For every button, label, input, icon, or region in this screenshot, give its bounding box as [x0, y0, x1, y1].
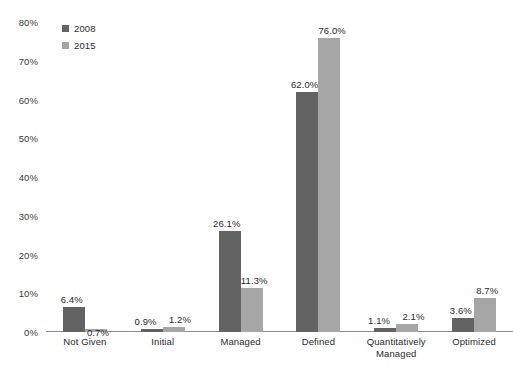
bar-2015[interactable]: 1.2%	[163, 327, 185, 332]
y-axis-tick-label: 40%	[19, 172, 38, 183]
bar-pair: 0.9%1.2%	[124, 22, 202, 332]
legend-label-2015: 2015	[74, 40, 96, 51]
bar-value-label: 8.7%	[476, 285, 498, 296]
bar-group: 0.9%1.2%	[124, 22, 202, 332]
bar-value-label: 11.3%	[241, 275, 268, 286]
x-axis-category-label: Not Given	[46, 336, 124, 348]
bar-value-label: 1.1%	[368, 315, 390, 326]
bar-pair: 1.1%2.1%	[357, 22, 435, 332]
y-axis-tick-label: 60%	[19, 94, 38, 105]
y-axis-tick-label: 80%	[19, 17, 38, 28]
chart-legend: 2008 2015	[62, 20, 96, 54]
bar-pair: 26.1%11.3%	[202, 22, 280, 332]
x-axis-category-label: Optimized	[435, 336, 513, 348]
legend-item-2008: 2008	[62, 20, 96, 37]
bar-group: 3.6%8.7%	[435, 22, 513, 332]
bar-2008[interactable]: 3.6%	[452, 318, 474, 332]
x-axis-category-label: Defined	[280, 336, 358, 348]
bar-group: 6.4%0.7%	[46, 22, 124, 332]
legend-swatch-icon-2015	[62, 42, 69, 49]
bar-pair: 6.4%0.7%	[46, 22, 124, 332]
bar-group: 1.1%2.1%	[357, 22, 435, 332]
bar-2015[interactable]: 8.7%	[474, 298, 496, 332]
bar-value-label: 1.2%	[169, 314, 191, 325]
bar-pair: 3.6%8.7%	[435, 22, 513, 332]
bar-2015[interactable]: 76.0%	[318, 38, 340, 333]
x-axis-category-label: Quantitatively Managed	[357, 336, 435, 360]
bar-2008[interactable]: 6.4%	[63, 307, 85, 332]
bar-value-label: 2.1%	[402, 311, 424, 322]
bar-chart: 80%70%60%50%40%30%20%10%0% 6.4%0.7%0.9%1…	[0, 0, 513, 377]
bar-pair: 62.0%76.0%	[280, 22, 358, 332]
bar-2008[interactable]: 1.1%	[374, 328, 396, 332]
bar-group: 62.0%76.0%	[280, 22, 358, 332]
bar-value-label: 0.9%	[135, 316, 157, 327]
legend-swatch-icon-2008	[62, 25, 69, 32]
bar-2008[interactable]: 26.1%	[219, 231, 241, 332]
y-axis-tick-label: 0%	[24, 327, 38, 338]
legend-item-2015: 2015	[62, 37, 96, 54]
plot-area: 6.4%0.7%0.9%1.2%26.1%11.3%62.0%76.0%1.1%…	[46, 22, 513, 332]
x-axis-category-label: Managed	[202, 336, 280, 348]
bar-2015[interactable]: 0.7%	[85, 329, 107, 332]
bar-2008[interactable]: 0.9%	[141, 329, 163, 332]
y-axis: 80%70%60%50%40%30%20%10%0%	[0, 0, 46, 377]
bar-2015[interactable]: 11.3%	[241, 288, 263, 332]
y-axis-tick-label: 10%	[19, 288, 38, 299]
bar-group: 26.1%11.3%	[202, 22, 280, 332]
x-axis-category-label: Initial	[124, 336, 202, 348]
bar-value-label: 6.4%	[61, 294, 83, 305]
y-axis-tick-label: 20%	[19, 249, 38, 260]
legend-label-2008: 2008	[74, 23, 96, 34]
bar-value-label: 76.0%	[318, 25, 345, 36]
bar-2015[interactable]: 2.1%	[396, 324, 418, 332]
bar-value-label: 26.1%	[213, 218, 240, 229]
y-axis-tick-label: 30%	[19, 210, 38, 221]
bar-2008[interactable]: 62.0%	[296, 92, 318, 332]
y-axis-tick-label: 50%	[19, 133, 38, 144]
bar-value-label: 3.6%	[450, 305, 472, 316]
y-axis-tick-label: 70%	[19, 55, 38, 66]
bar-value-label: 62.0%	[291, 79, 318, 90]
